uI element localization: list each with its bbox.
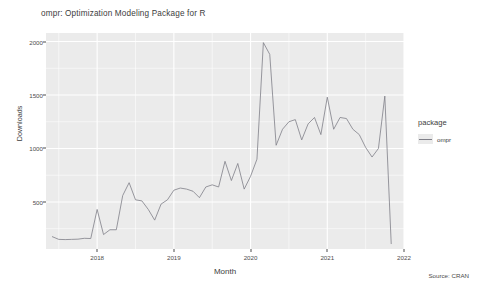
y-tick-label: 2000	[29, 38, 43, 45]
y-tick-label: 1000	[29, 145, 43, 152]
legend-line-icon	[418, 134, 433, 144]
x-tick-label: 2020	[244, 254, 258, 261]
legend-item[interactable]: ompr	[418, 134, 476, 144]
plot-svg	[46, 33, 404, 249]
legend: package ompr	[418, 118, 476, 144]
series-line	[52, 43, 391, 244]
x-tick-label: 2022	[397, 254, 411, 261]
x-tick-label: 2021	[320, 254, 334, 261]
x-tick-mark	[250, 249, 251, 252]
x-tick-mark	[97, 249, 98, 252]
chart-caption: Source: CRAN	[428, 272, 469, 279]
y-axis-ticks: 500100015002000	[0, 33, 43, 249]
data-series-group	[52, 43, 391, 244]
x-axis-ticks: 20182019202020212022	[46, 249, 404, 267]
y-tick-label: 500	[33, 198, 43, 205]
legend-items: ompr	[418, 134, 476, 144]
x-axis-title: Month	[46, 267, 404, 276]
legend-item-label: ompr	[437, 136, 451, 143]
x-tick-mark	[327, 249, 328, 252]
x-tick-mark	[404, 249, 405, 252]
x-tick-label: 2019	[167, 254, 181, 261]
x-tick-label: 2018	[90, 254, 104, 261]
chart-title: ompr: Optimization Modeling Package for …	[41, 9, 206, 18]
x-tick-mark	[173, 249, 174, 252]
y-tick-label: 1500	[29, 92, 43, 99]
plot-panel	[46, 33, 404, 249]
chart-container: ompr: Optimization Modeling Package for …	[0, 0, 477, 289]
legend-title: package	[418, 118, 476, 127]
grid-lines	[46, 33, 404, 249]
